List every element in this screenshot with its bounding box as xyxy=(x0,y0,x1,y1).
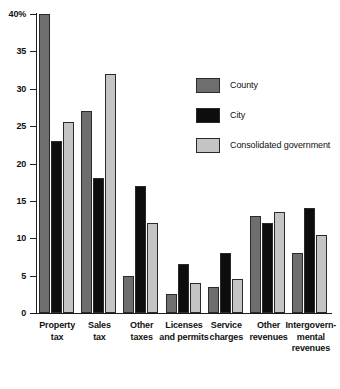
category-axis-label-line: mental xyxy=(282,332,340,344)
bar-group xyxy=(39,14,74,313)
y-axis-tick-label: 35 xyxy=(0,47,26,56)
legend-swatch xyxy=(196,108,220,123)
bar xyxy=(81,111,92,313)
bar xyxy=(304,208,315,313)
y-axis-tick-label: 20 xyxy=(0,160,26,169)
bar xyxy=(262,223,273,313)
bar xyxy=(135,186,146,313)
bar-group xyxy=(123,14,158,313)
bar xyxy=(190,283,201,313)
bar-group xyxy=(292,14,327,313)
bar-group xyxy=(208,14,243,313)
legend-swatch xyxy=(196,138,220,153)
y-axis-tick-label: 5 xyxy=(0,272,26,281)
bar xyxy=(51,141,62,313)
bar xyxy=(63,122,74,313)
bar xyxy=(39,14,50,313)
bar xyxy=(274,212,285,313)
bar-group xyxy=(81,14,116,313)
bar-group xyxy=(250,14,285,313)
bar-group xyxy=(166,14,201,313)
bar xyxy=(232,279,243,313)
y-axis-tick-label: 30 xyxy=(0,85,26,94)
category-axis-label: Intergovern-mentalrevenues xyxy=(282,320,340,355)
category-axis-label-line: revenues xyxy=(282,343,340,355)
x-axis-line xyxy=(36,313,332,314)
category-axis-label-line: Intergovern- xyxy=(282,320,340,332)
bar xyxy=(292,253,303,313)
y-axis-tick-label: 15 xyxy=(0,197,26,206)
bar xyxy=(220,253,231,313)
y-axis-tick-label: 10 xyxy=(0,234,26,243)
plot-area xyxy=(36,14,332,313)
bar xyxy=(147,223,158,313)
bar xyxy=(208,287,219,313)
bar xyxy=(123,276,134,313)
bar xyxy=(105,74,116,313)
y-axis-tick-label: 0 xyxy=(0,309,26,318)
bar xyxy=(250,216,261,313)
y-axis-tick-label: 40% xyxy=(0,10,26,19)
legend-swatch xyxy=(196,78,220,93)
bar xyxy=(166,294,177,313)
bar xyxy=(93,178,104,313)
legend-label: City xyxy=(230,110,245,121)
legend-label: County xyxy=(230,80,258,91)
legend-label: Consolidated government xyxy=(230,140,330,151)
bar xyxy=(178,264,189,313)
bar xyxy=(316,235,327,313)
y-axis-tick xyxy=(30,313,36,314)
y-axis-tick-label: 25 xyxy=(0,122,26,131)
